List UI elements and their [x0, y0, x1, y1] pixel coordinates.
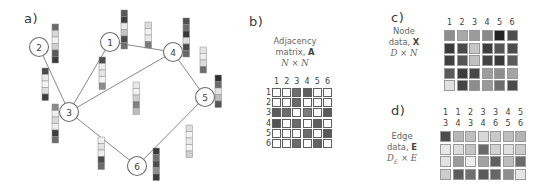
panel-d-letter: d): [391, 103, 405, 118]
matrix-cell: [313, 88, 322, 97]
matrix-cell: [453, 131, 464, 142]
feature-cell: [98, 137, 105, 144]
feature-cell: [52, 31, 59, 38]
panel-d-caption-line2: data, E: [368, 142, 436, 153]
matrix-cell: [494, 68, 505, 79]
feature-cell: [42, 75, 49, 82]
matrix-cell: [469, 55, 480, 66]
matrix-col-header: 4: [482, 19, 493, 27]
matrix-col-header: 5: [313, 78, 322, 86]
node-data-matrix-grid: [444, 30, 518, 91]
matrix-cell: [444, 68, 455, 79]
edge-data-matrix-col-headers-bottom: 3434656: [440, 120, 526, 128]
matrix-cell: [313, 129, 322, 138]
matrix-cell: [490, 169, 501, 180]
matrix-cell: [313, 139, 322, 148]
matrix-cell: [292, 108, 301, 117]
matrix-cell: [515, 169, 526, 180]
feature-cell: [186, 138, 193, 145]
matrix-cell: [478, 131, 489, 142]
matrix-cell: [465, 144, 476, 155]
matrix-col-header: 1: [440, 109, 451, 117]
edge-feature-strip: [98, 137, 105, 170]
node-feature-strip: [153, 148, 160, 181]
matrix-cell: [457, 43, 468, 54]
matrix-col-header: 2: [465, 109, 476, 117]
matrix-col-header: 3: [469, 19, 480, 27]
feature-cell: [215, 95, 222, 102]
matrix-cell: [494, 80, 505, 91]
feature-cell: [153, 161, 160, 168]
matrix-cell: [465, 131, 476, 142]
feature-cell: [215, 82, 222, 89]
matrix-cell: [282, 119, 291, 128]
matrix-cell: [323, 139, 332, 148]
feature-cell: [52, 50, 59, 57]
matrix-row-header: 3: [261, 108, 271, 117]
feature-cell: [121, 30, 128, 37]
panel-c-caption: Node data, X D × N: [373, 26, 435, 59]
matrix-cell: [457, 80, 468, 91]
matrix-cell: [469, 80, 480, 91]
matrix-cell: [282, 139, 291, 148]
matrix-cell: [440, 144, 451, 155]
matrix-cell: [515, 156, 526, 167]
feature-cell: [153, 155, 160, 162]
node-feature-strip: [121, 10, 128, 49]
feature-cell: [133, 102, 140, 109]
matrix-cell: [457, 55, 468, 66]
feature-cell: [98, 157, 105, 164]
edge-data-matrix: 1123345 3434656: [440, 131, 526, 180]
matrix-cell: [494, 30, 505, 41]
panel-d-dims-post: × E: [398, 153, 417, 163]
feature-cell: [98, 150, 105, 157]
feature-cell: [200, 54, 207, 61]
matrix-col-header: 4: [478, 120, 489, 128]
matrix-cell: [494, 55, 505, 66]
matrix-col-header: 2: [457, 19, 468, 27]
feature-cell: [52, 111, 59, 118]
matrix-row-header: 4: [261, 119, 271, 128]
matrix-cell: [323, 88, 332, 97]
panel-d-caption: Edge data, E DE × E: [368, 131, 436, 165]
feature-cell: [121, 36, 128, 43]
feature-cell: [183, 31, 190, 38]
adjacency-matrix-row-headers: 123456: [261, 88, 271, 148]
matrix-cell: [478, 144, 489, 155]
feature-cell: [186, 125, 193, 132]
matrix-col-header: 3: [292, 78, 301, 86]
graph-node-label: 3: [66, 108, 72, 118]
edge-feature-strip: [133, 82, 140, 115]
feature-cell: [215, 101, 222, 108]
matrix-cell: [292, 88, 301, 97]
node-feature-strip: [215, 75, 222, 108]
feature-cell: [121, 17, 128, 24]
matrix-cell: [292, 129, 301, 138]
matrix-cell: [482, 43, 493, 54]
feature-cell: [52, 57, 59, 64]
feature-cell: [186, 145, 193, 152]
matrix-cell: [507, 68, 518, 79]
feature-cell: [42, 68, 49, 75]
feature-cell: [42, 88, 49, 95]
adjacency-matrix-grid: [272, 88, 332, 148]
feature-cell: [99, 64, 106, 71]
matrix-cell: [444, 30, 455, 41]
graph-node-label: 2: [36, 43, 42, 53]
feature-cell: [215, 88, 222, 95]
matrix-cell: [494, 43, 505, 54]
feature-cell: [99, 77, 106, 84]
feature-cell: [153, 148, 160, 155]
feature-cell: [52, 137, 59, 144]
edge-data-matrix-col-headers-top: 1123345: [440, 109, 526, 117]
graph-diagram: 214356: [0, 0, 240, 189]
feature-cell: [186, 151, 193, 158]
matrix-cell: [444, 43, 455, 54]
matrix-cell: [303, 88, 312, 97]
matrix-cell: [292, 98, 301, 107]
panel-d-caption-line1: Edge: [368, 131, 436, 142]
matrix-cell: [457, 68, 468, 79]
panel-c-caption-line1: Node: [373, 26, 435, 37]
matrix-cell: [292, 139, 301, 148]
matrix-cell: [323, 119, 332, 128]
